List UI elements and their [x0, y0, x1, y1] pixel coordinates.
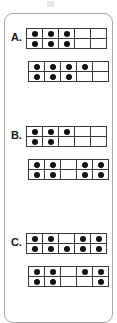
dot-icon [34, 74, 40, 80]
dot-icon [64, 246, 70, 252]
dot-icon [50, 64, 56, 70]
frame-b-1-row-2 [27, 137, 107, 147]
dot-icon [32, 246, 38, 252]
cell-c-2-r1-c2[interactable] [45, 267, 61, 277]
dot-icon [64, 129, 70, 135]
cell-c-1-r2-c3[interactable] [59, 244, 75, 254]
frame-a-2-row-2 [29, 72, 109, 82]
cell-c-2-r2-c4[interactable] [77, 277, 93, 287]
cell-b-2-r2-c1[interactable] [29, 170, 45, 180]
cell-b-2-r1-c1[interactable] [29, 160, 45, 170]
dot-icon [32, 139, 38, 145]
frame-c-1-row-2 [27, 244, 107, 254]
cell-a-1-r2-c3[interactable] [59, 39, 75, 49]
cell-b-1-r1-c1[interactable] [27, 127, 43, 137]
cell-a-1-r1-c2[interactable] [43, 29, 59, 39]
dot-icon [66, 64, 72, 70]
cell-b-1-r2-c1[interactable] [27, 137, 43, 147]
cell-a-2-r2-c4[interactable] [77, 72, 93, 82]
dot-icon [32, 41, 38, 47]
cell-c-2-r1-c4[interactable] [77, 267, 93, 277]
cell-a-1-r1-c3[interactable] [59, 29, 75, 39]
cell-b-2-r1-c4[interactable] [77, 160, 93, 170]
dot-icon [82, 172, 88, 178]
cell-b-2-r2-c4[interactable] [77, 170, 93, 180]
cell-b-2-r1-c3[interactable] [61, 160, 77, 170]
cell-a-1-r2-c5[interactable] [91, 39, 107, 49]
frame-b-2-row-1 [29, 160, 109, 170]
cell-a-1-r1-c5[interactable] [91, 29, 107, 39]
cell-a-2-r1-c4[interactable] [77, 62, 93, 72]
cell-a-2-r2-c1[interactable] [29, 72, 45, 82]
cell-c-2-r2-c1[interactable] [29, 277, 45, 287]
frame-b-2-row-2 [29, 170, 109, 180]
dot-icon [50, 172, 56, 178]
dot-icon [34, 279, 40, 285]
cell-b-1-r2-c5[interactable] [91, 137, 107, 147]
cell-b-1-r2-c3[interactable] [59, 137, 75, 147]
section-label-c: C. [11, 237, 22, 248]
cell-c-1-r1-c3[interactable] [59, 234, 75, 244]
cell-a-2-r2-c3[interactable] [61, 72, 77, 82]
dot-icon [48, 31, 54, 37]
dot-icon [96, 246, 102, 252]
frame-c-2 [28, 266, 109, 287]
dot-icon [98, 279, 104, 285]
dot-icon [82, 162, 88, 168]
cell-c-1-r1-c1[interactable] [27, 234, 43, 244]
cell-b-1-r1-c5[interactable] [91, 127, 107, 137]
cell-a-2-r1-c3[interactable] [61, 62, 77, 72]
dot-icon [80, 236, 86, 242]
dot-icon [80, 246, 86, 252]
section-label-b: B. [11, 130, 22, 141]
cell-c-2-r2-c5[interactable] [93, 277, 109, 287]
dot-icon [50, 269, 56, 275]
frame-a-1 [26, 28, 107, 49]
cell-a-2-r1-c1[interactable] [29, 62, 45, 72]
dot-icon [34, 269, 40, 275]
cell-c-1-r1-c5[interactable] [91, 234, 107, 244]
cell-a-1-r1-c1[interactable] [27, 29, 43, 39]
cell-b-1-r2-c2[interactable] [43, 137, 59, 147]
cell-b-1-r1-c4[interactable] [75, 127, 91, 137]
cell-a-2-r2-c2[interactable] [45, 72, 61, 82]
dot-icon [82, 269, 88, 275]
cell-b-2-r1-c2[interactable] [45, 160, 61, 170]
frame-c-1-row-1 [27, 234, 107, 244]
cell-c-1-r1-c4[interactable] [75, 234, 91, 244]
cell-a-2-r1-c2[interactable] [45, 62, 61, 72]
cell-c-1-r1-c2[interactable] [43, 234, 59, 244]
dot-icon [34, 64, 40, 70]
cell-c-2-r1-c3[interactable] [61, 267, 77, 277]
cell-b-1-r1-c2[interactable] [43, 127, 59, 137]
cell-a-1-r2-c4[interactable] [75, 39, 91, 49]
frame-c-2-row-1 [29, 267, 109, 277]
cell-a-1-r2-c2[interactable] [43, 39, 59, 49]
dot-icon [48, 236, 54, 242]
dot-icon [98, 269, 104, 275]
frame-b-1 [26, 126, 107, 147]
cell-b-2-r2-c3[interactable] [61, 170, 77, 180]
cell-c-2-r2-c3[interactable] [61, 277, 77, 287]
cell-b-2-r1-c5[interactable] [93, 160, 109, 170]
cell-c-1-r2-c2[interactable] [43, 244, 59, 254]
dot-icon [48, 246, 54, 252]
cell-b-2-r2-c2[interactable] [45, 170, 61, 180]
cell-b-2-r2-c5[interactable] [93, 170, 109, 180]
cell-c-2-r2-c2[interactable] [45, 277, 61, 287]
frame-b-2 [28, 159, 109, 180]
cell-c-2-r1-c5[interactable] [93, 267, 109, 277]
cell-a-1-r2-c1[interactable] [27, 39, 43, 49]
cell-c-1-r2-c4[interactable] [75, 244, 91, 254]
cell-b-1-r2-c4[interactable] [75, 137, 91, 147]
cell-a-2-r2-c5[interactable] [93, 72, 109, 82]
cell-b-1-r1-c3[interactable] [59, 127, 75, 137]
cell-c-2-r1-c1[interactable] [29, 267, 45, 277]
frame-a-1-row-2 [27, 39, 107, 49]
cell-a-1-r1-c4[interactable] [75, 29, 91, 39]
cell-c-1-r2-c1[interactable] [27, 244, 43, 254]
dot-icon [98, 162, 104, 168]
dot-icon [98, 172, 104, 178]
cell-c-1-r2-c5[interactable] [91, 244, 107, 254]
cell-a-2-r1-c5[interactable] [93, 62, 109, 72]
